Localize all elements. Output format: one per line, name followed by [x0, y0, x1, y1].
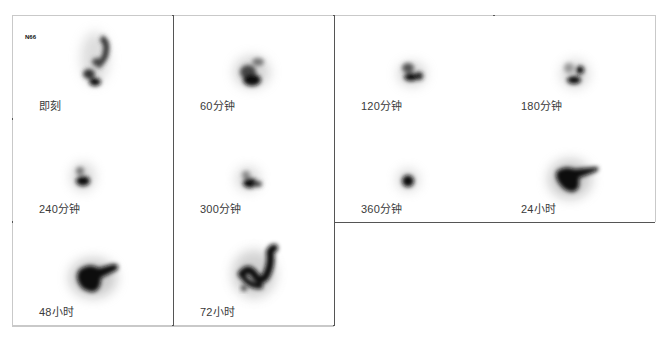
- time-label: 60分钟: [200, 97, 235, 113]
- panel-immediate: N66 即刻: [13, 16, 173, 119]
- time-label: 240分钟: [39, 200, 80, 216]
- time-label: 72小时: [200, 303, 235, 319]
- tracer-uptake-image: [174, 119, 334, 222]
- panel-60min: 60分钟: [174, 16, 334, 119]
- tracer-uptake-image: [174, 222, 334, 325]
- time-label: 360分钟: [361, 200, 402, 216]
- tracer-uptake-image: [335, 119, 495, 222]
- panel-300min: 300分钟: [174, 119, 334, 222]
- time-label: 即刻: [39, 97, 61, 113]
- tracer-uptake-image: [13, 16, 173, 119]
- tracer-uptake-image: [13, 222, 173, 325]
- tracer-uptake-image: [335, 16, 495, 119]
- time-label: 180分钟: [521, 97, 562, 113]
- tracer-uptake-image: [174, 16, 334, 119]
- panel-120min: 120分钟: [335, 16, 495, 119]
- panel-72h: 72小时: [174, 222, 334, 325]
- scintigraphy-time-series-grid: N66 即刻 60分钟: [0, 0, 663, 337]
- panel-24h: 24小时: [495, 119, 655, 222]
- tracer-uptake-image: [495, 16, 655, 119]
- time-label: 120分钟: [361, 97, 402, 113]
- time-label: 24小时: [521, 200, 556, 216]
- panel-240min: 240分钟: [13, 119, 173, 222]
- time-label: 48小时: [39, 303, 74, 319]
- panel-360min: 360分钟: [335, 119, 495, 222]
- time-label: 300分钟: [200, 200, 241, 216]
- panel-180min: 180分钟: [495, 16, 655, 119]
- tracer-uptake-image: [13, 119, 173, 222]
- panel-48h: 48小时: [13, 222, 173, 325]
- tracer-uptake-image: [495, 119, 655, 222]
